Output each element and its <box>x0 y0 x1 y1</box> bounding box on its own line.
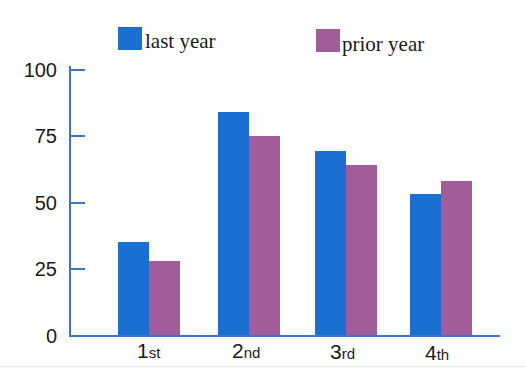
bar-4th-last-year <box>410 194 441 335</box>
bar-4th-prior-year <box>441 181 472 335</box>
xlabel-suffix: rd <box>342 345 355 362</box>
bar-1st-last-year <box>118 242 149 335</box>
xlabel-num: 1 <box>137 339 149 362</box>
legend-swatch-prior-year <box>316 29 340 52</box>
legend-swatch-last-year <box>118 27 142 50</box>
ytick-mark-100 <box>71 69 85 71</box>
ytick-100: 100 <box>24 60 57 80</box>
x-axis-line <box>69 335 500 337</box>
ytick-0: 0 <box>46 326 57 346</box>
ytick-mark-75 <box>71 135 85 137</box>
xlabel-3rd: 3rd <box>330 341 355 362</box>
legend-label-prior-year: prior year <box>342 34 424 55</box>
ytick-25: 25 <box>35 259 57 279</box>
bar-3rd-prior-year <box>346 165 377 335</box>
y-axis-line <box>69 66 71 336</box>
ytick-mark-50 <box>71 202 85 204</box>
xlabel-num: 2 <box>232 339 244 362</box>
bar-1st-prior-year <box>149 261 180 335</box>
xlabel-num: 3 <box>330 340 342 363</box>
ytick-75: 75 <box>35 126 57 146</box>
bar-2nd-last-year <box>218 112 249 335</box>
bar-2nd-prior-year <box>249 136 280 336</box>
ytick-50: 50 <box>35 193 57 213</box>
footer-band <box>0 366 525 392</box>
bar-3rd-last-year <box>315 151 346 335</box>
xlabel-suffix: nd <box>244 344 261 361</box>
xlabel-num: 4 <box>425 341 437 364</box>
legend-label-last-year: last year <box>145 31 216 52</box>
xlabel-1st: 1st <box>137 340 160 361</box>
ytick-mark-25 <box>71 268 85 270</box>
xlabel-suffix: th <box>437 346 450 363</box>
xlabel-suffix: st <box>149 344 161 361</box>
cropped-title-text <box>250 0 525 2</box>
xlabel-4th: 4th <box>425 342 449 363</box>
xlabel-2nd: 2nd <box>232 340 260 361</box>
